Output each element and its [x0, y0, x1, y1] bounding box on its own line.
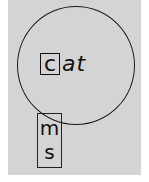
word-display: c at — [40, 52, 86, 76]
strip-letter: s — [38, 142, 61, 162]
onset-window: c — [40, 53, 60, 75]
rime-text: at — [62, 52, 86, 76]
